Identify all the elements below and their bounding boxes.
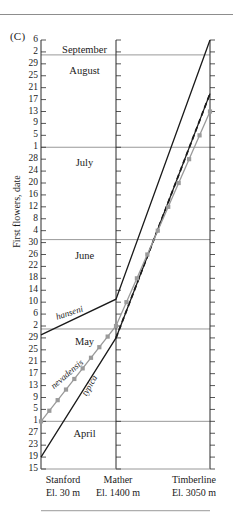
month-label-july: July: [76, 157, 94, 168]
month-label-may: May: [75, 335, 94, 346]
data-point-marker: [135, 276, 139, 280]
data-point-marker: [106, 334, 110, 338]
data-point-marker: [114, 324, 118, 328]
station-elevation: El. 1400 m: [96, 487, 140, 500]
data-point-marker: [72, 377, 76, 381]
month-label-august: August: [69, 64, 99, 75]
data-point-marker: [145, 252, 149, 256]
station-name: Timberline: [172, 474, 216, 487]
month-label-april: April: [73, 428, 95, 439]
data-point-marker: [89, 356, 93, 360]
station-name: Stanford: [46, 474, 80, 487]
data-point-marker: [56, 398, 60, 402]
chart-figure: First flowers, date 62292521171395128242…: [0, 0, 233, 519]
y-axis-ticks: [41, 40, 215, 469]
data-point-marker: [39, 419, 43, 423]
series-line-hanseni: [41, 40, 210, 335]
station-caption-mather: MatherEl. 1400 m: [96, 474, 140, 499]
data-point-marker: [124, 300, 128, 304]
month-boundary-rules: [41, 55, 210, 511]
month-label-september: September: [62, 43, 107, 54]
station-caption-stanford: StanfordEl. 30 m: [46, 474, 80, 499]
data-point-marker: [47, 409, 51, 413]
chart-canvas: [0, 0, 233, 519]
month-label-june: June: [75, 249, 94, 260]
data-point-marker: [177, 181, 181, 185]
series-line-typica: [41, 94, 210, 457]
data-point-marker: [197, 133, 201, 137]
station-elevation: El. 30 m: [46, 487, 80, 500]
data-point-marker: [166, 205, 170, 209]
station-caption-timberline: TimberlineEl. 3050 m: [172, 474, 216, 499]
data-point-marker: [97, 345, 101, 349]
data-point-marker: [187, 157, 191, 161]
data-series-group: [39, 40, 212, 457]
station-elevation: El. 3050 m: [172, 487, 216, 500]
axis-group: [41, 40, 210, 469]
station-name: Mather: [96, 474, 140, 487]
data-point-marker: [156, 229, 160, 233]
data-point-marker: [64, 387, 68, 391]
data-point-marker: [208, 109, 212, 113]
